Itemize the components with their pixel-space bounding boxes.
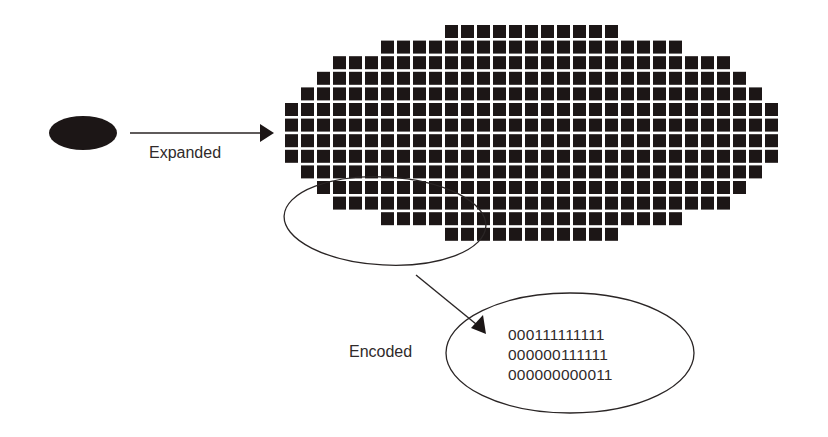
pixel-cell xyxy=(333,87,346,100)
pixel-cell xyxy=(541,103,554,116)
pixel-cell xyxy=(717,56,730,69)
pixel-cell xyxy=(381,119,394,132)
pixel-cell xyxy=(717,119,730,132)
pixel-cell xyxy=(493,103,506,116)
pixel-cell xyxy=(733,134,746,147)
pixel-cell xyxy=(541,165,554,178)
pixel-cell xyxy=(557,165,570,178)
pixel-cell xyxy=(509,165,522,178)
pixel-cell xyxy=(413,56,426,69)
pixel-cell xyxy=(589,119,602,132)
pixel-cell xyxy=(653,119,666,132)
pixel-cell xyxy=(573,56,586,69)
pixel-cell xyxy=(317,150,330,163)
pixel-cell xyxy=(749,103,762,116)
pixel-cell xyxy=(477,72,490,85)
pixel-cell xyxy=(717,197,730,210)
pixel-cell xyxy=(669,134,682,147)
pixel-cell xyxy=(605,56,618,69)
pixel-cell xyxy=(333,181,346,194)
pixel-cell xyxy=(509,197,522,210)
pixel-cell xyxy=(461,181,474,194)
pixel-cell xyxy=(445,72,458,85)
pixel-cell xyxy=(653,181,666,194)
pixel-cell xyxy=(685,181,698,194)
pixel-cell xyxy=(621,212,634,225)
pixel-cell xyxy=(589,228,602,241)
pixel-cell xyxy=(429,212,442,225)
pixel-cell xyxy=(397,56,410,69)
pixel-cell xyxy=(429,197,442,210)
pixel-cell xyxy=(589,41,602,54)
pixel-cell xyxy=(349,119,362,132)
pixel-cell xyxy=(573,41,586,54)
pixel-cell xyxy=(573,197,586,210)
pixel-cell xyxy=(509,150,522,163)
expand-arrow xyxy=(130,124,274,142)
pixel-cell xyxy=(733,103,746,116)
pixel-cell xyxy=(717,165,730,178)
pixel-cell xyxy=(541,181,554,194)
pixel-cell xyxy=(573,165,586,178)
pixel-cell xyxy=(621,165,634,178)
pixel-cell xyxy=(557,25,570,38)
pixel-cell xyxy=(637,212,650,225)
pixel-cell xyxy=(749,119,762,132)
pixel-cell xyxy=(445,103,458,116)
pixel-cell xyxy=(381,212,394,225)
pixel-cell xyxy=(717,134,730,147)
pixel-cell xyxy=(477,41,490,54)
pixel-cell xyxy=(509,134,522,147)
pixel-cell xyxy=(429,150,442,163)
pixel-cell xyxy=(493,41,506,54)
pixel-cell xyxy=(573,72,586,85)
pixel-cell xyxy=(509,103,522,116)
pixel-cell xyxy=(637,119,650,132)
pixel-cell xyxy=(637,103,650,116)
pixel-cell xyxy=(637,87,650,100)
pixel-cell xyxy=(429,87,442,100)
pixel-cell xyxy=(381,150,394,163)
encoded-row: 000111111111 xyxy=(508,325,613,345)
pixel-cell xyxy=(605,41,618,54)
pixel-cell xyxy=(525,87,538,100)
pixel-cell xyxy=(461,212,474,225)
pixel-cell xyxy=(413,197,426,210)
pixel-cell xyxy=(509,181,522,194)
pixel-cell xyxy=(669,197,682,210)
pixel-cell xyxy=(461,228,474,241)
pixel-cell xyxy=(557,181,570,194)
pixel-cell xyxy=(525,181,538,194)
pixel-cell xyxy=(717,103,730,116)
pixel-cell xyxy=(589,197,602,210)
pixel-cell xyxy=(589,212,602,225)
pixel-cell xyxy=(557,41,570,54)
pixel-cell xyxy=(525,72,538,85)
pixel-cell xyxy=(733,72,746,85)
pixel-cell xyxy=(461,119,474,132)
pixel-cell xyxy=(717,181,730,194)
pixel-cell xyxy=(365,56,378,69)
pixel-cell xyxy=(701,197,714,210)
pixel-cell xyxy=(461,165,474,178)
pixel-cell xyxy=(333,103,346,116)
pixel-cell xyxy=(349,56,362,69)
pixel-cell xyxy=(541,119,554,132)
pixel-cell xyxy=(621,72,634,85)
pixel-cell xyxy=(397,72,410,85)
pixel-cell xyxy=(733,87,746,100)
pixel-cell xyxy=(669,41,682,54)
pixel-cell xyxy=(317,72,330,85)
pixel-cell xyxy=(493,56,506,69)
pixel-cell xyxy=(653,197,666,210)
pixel-cell xyxy=(637,181,650,194)
pixel-cell xyxy=(589,181,602,194)
pixel-cell xyxy=(653,150,666,163)
pixel-cell xyxy=(749,87,762,100)
pixel-cell xyxy=(701,87,714,100)
pixel-grid xyxy=(285,25,778,241)
pixel-cell xyxy=(765,103,778,116)
pixel-cell xyxy=(541,41,554,54)
pixel-cell xyxy=(301,165,314,178)
pixel-cell xyxy=(669,150,682,163)
